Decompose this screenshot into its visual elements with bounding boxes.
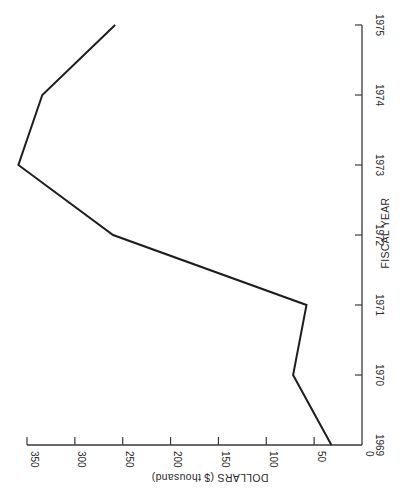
year-axis: 1969197019711972197319741975 FISCAL YEAR bbox=[355, 14, 391, 457]
value-tick-label: 200 bbox=[172, 451, 183, 468]
year-axis-title: FISCAL YEAR bbox=[379, 197, 391, 268]
dollars-series-line bbox=[18, 25, 331, 445]
value-tick-label: 0 bbox=[364, 451, 375, 457]
value-tick-label: 300 bbox=[76, 451, 87, 468]
year-tick-label: 1974 bbox=[374, 84, 385, 107]
value-axis-ticks: 050100150200250300350 bbox=[27, 437, 375, 468]
value-axis: 050100150200250300350 DOLLARS ($ thousan… bbox=[27, 437, 375, 484]
year-tick-label: 1975 bbox=[374, 14, 385, 37]
year-tick-label: 1969 bbox=[374, 434, 385, 457]
year-tick-label: 1970 bbox=[374, 364, 385, 387]
value-tick-label: 250 bbox=[124, 451, 135, 468]
year-tick-label: 1973 bbox=[374, 154, 385, 177]
value-tick-label: 50 bbox=[316, 451, 327, 463]
value-tick-label: 150 bbox=[220, 451, 231, 468]
value-tick-label: 350 bbox=[29, 451, 40, 468]
value-axis-title: DOLLARS ($ thousand) bbox=[152, 472, 269, 484]
value-tick-label: 100 bbox=[268, 451, 279, 468]
year-tick-label: 1971 bbox=[374, 294, 385, 317]
line-chart: 050100150200250300350 DOLLARS ($ thousan… bbox=[0, 0, 400, 490]
